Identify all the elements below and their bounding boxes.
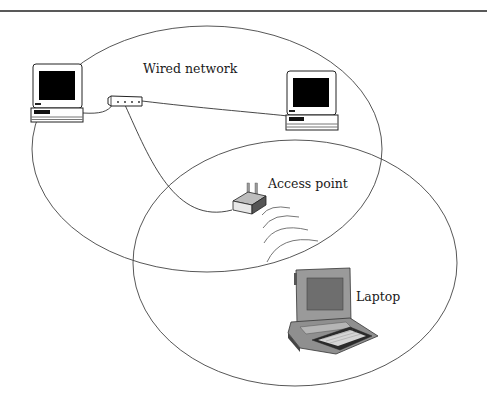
wireless-signal-icon [262,207,318,262]
wireless-network-diagram: Wired network Access point Laptop [0,0,487,408]
desktop-right-icon [286,71,338,130]
network-hub-icon [108,96,142,106]
wired-network-label: Wired network [143,63,237,76]
laptop-icon [288,268,378,354]
cable-left-to-hub [83,104,113,113]
cable-hub-to-right [142,101,288,116]
access-point-label: Access point [268,178,348,191]
desktop-left-icon [31,64,83,122]
access-point-icon [233,183,266,214]
cable-hub-to-access-point [125,105,232,212]
diagram-drawing [0,0,487,408]
laptop-label: Laptop [356,291,400,304]
